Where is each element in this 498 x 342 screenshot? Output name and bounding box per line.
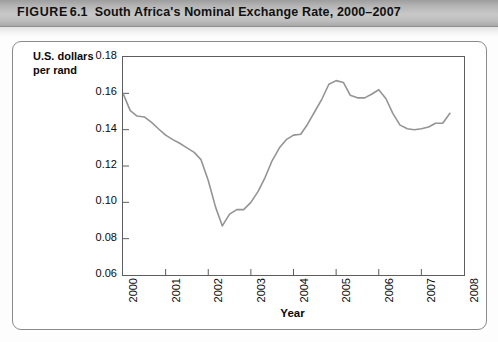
x-tick-label: 2005 <box>340 278 352 302</box>
figure-title-bar: FIGURE6.1South Africa's Nominal Exchange… <box>0 0 498 27</box>
x-tick-label: 2003 <box>255 278 267 302</box>
x-tick-label: 2004 <box>298 278 310 302</box>
x-axis-title: Year <box>122 307 463 319</box>
line-chart-svg <box>123 57 464 275</box>
y-axis-ticks <box>123 93 129 238</box>
x-tick-label: 2006 <box>383 278 395 302</box>
figure-label: FIGURE <box>17 5 68 19</box>
y-tick-label: 0.18 <box>87 50 117 61</box>
plot-area <box>122 56 465 276</box>
y-tick-label: 0.14 <box>87 123 117 134</box>
data-series-line <box>123 81 450 226</box>
x-tick-label: 2002 <box>212 278 224 302</box>
x-tick-label: 2007 <box>425 278 437 302</box>
x-tick-label: 2008 <box>468 278 480 302</box>
y-tick-label-group: 0.060.080.100.120.140.160.18 <box>81 56 117 274</box>
title-underband <box>0 27 498 36</box>
y-tick-label: 0.12 <box>87 159 117 170</box>
x-tick-label: 2000 <box>127 278 139 302</box>
figure-container: FIGURE6.1South Africa's Nominal Exchange… <box>0 0 498 342</box>
y-tick-label: 0.16 <box>87 86 117 97</box>
y-tick-label: 0.08 <box>87 232 117 243</box>
figure-title: FIGURE6.1South Africa's Nominal Exchange… <box>17 5 401 19</box>
x-axis-ticks <box>166 269 422 275</box>
figure-number: 6.1 <box>70 5 88 19</box>
figure-caption: South Africa's Nominal Exchange Rate, 20… <box>95 5 401 19</box>
x-tick-label: 2001 <box>170 278 182 302</box>
figure-card: U.S. dollars per rand 0.060.080.100.120.… <box>12 41 487 330</box>
y-tick-label: 0.10 <box>87 195 117 206</box>
y-tick-label: 0.06 <box>87 268 117 279</box>
